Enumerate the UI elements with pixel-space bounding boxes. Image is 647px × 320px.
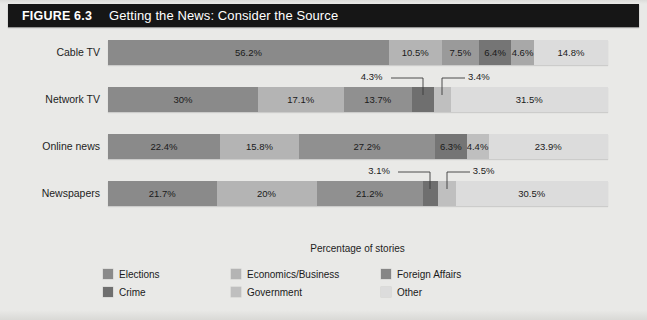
segment-value-label: 17.1% bbox=[287, 94, 314, 105]
legend-item-government[interactable]: Government bbox=[231, 284, 381, 300]
x-axis-title-text: Percentage of stories bbox=[242, 243, 405, 254]
bar-segment-other[interactable]: 23.9% bbox=[489, 134, 609, 159]
legend-swatch-icon bbox=[103, 269, 113, 279]
legend-item-economics-business[interactable]: Economics/Business bbox=[231, 266, 381, 282]
segment-value-label: 21.7% bbox=[149, 188, 176, 199]
chart-plot-area: Cable TV56.2%10.5%7.5%6.4%4.6%14.8%Netwo… bbox=[0, 30, 647, 240]
stacked-bar[interactable]: 21.7%20%21.2%30.5% bbox=[108, 181, 608, 206]
legend-label: Economics/Business bbox=[247, 269, 339, 280]
paper-bottom-shade bbox=[0, 310, 647, 320]
legend-swatch-icon bbox=[103, 287, 113, 297]
legend-swatch-icon bbox=[381, 269, 391, 279]
segment-value-label: 20% bbox=[257, 188, 276, 199]
bar-segment-elections[interactable]: 30% bbox=[108, 87, 258, 112]
x-axis-title: Percentage of stories bbox=[0, 243, 647, 254]
chart-row: Cable TV56.2%10.5%7.5%6.4%4.6%14.8% bbox=[0, 30, 647, 76]
bar-segment-other[interactable]: 14.8% bbox=[534, 40, 608, 65]
bar-segment-crime[interactable]: 6.4% bbox=[479, 40, 511, 65]
segment-value-label: 6.3% bbox=[440, 141, 462, 152]
segment-value-label: 30% bbox=[173, 94, 192, 105]
legend-item-elections[interactable]: Elections bbox=[103, 266, 231, 282]
figure-title: Getting the News: Consider the Source bbox=[109, 8, 338, 23]
chart-row: Online news22.4%15.8%27.2%6.3%4.4%23.9% bbox=[0, 124, 647, 170]
bar-segment-economics-business[interactable]: 17.1% bbox=[258, 87, 344, 112]
segment-value-label: 4.6% bbox=[512, 47, 534, 58]
segment-value-label: 30.5% bbox=[518, 188, 545, 199]
legend-swatch-icon bbox=[381, 287, 391, 297]
bar-segment-foreign-affairs[interactable]: 7.5% bbox=[442, 40, 480, 65]
legend-label: Government bbox=[247, 287, 302, 298]
callout-leader-line bbox=[368, 171, 438, 195]
bar-segment-elections[interactable]: 22.4% bbox=[108, 134, 220, 159]
legend-label: Foreign Affairs bbox=[397, 269, 461, 280]
bar-segment-government[interactable]: 4.6% bbox=[511, 40, 534, 65]
bar-segment-foreign-affairs[interactable]: 27.2% bbox=[299, 134, 435, 159]
segment-value-label: 14.8% bbox=[558, 47, 585, 58]
legend-swatch-icon bbox=[231, 287, 241, 297]
bar-segment-elections[interactable]: 21.7% bbox=[108, 181, 217, 206]
segment-value-label: 10.5% bbox=[402, 47, 429, 58]
legend-item-crime[interactable]: Crime bbox=[103, 284, 231, 300]
segment-value-label: 22.4% bbox=[151, 141, 178, 152]
legend-label: Other bbox=[397, 287, 422, 298]
segment-value-label: 31.5% bbox=[516, 94, 543, 105]
segment-value-label: 56.2% bbox=[235, 47, 262, 58]
bar-segment-crime[interactable]: 6.3% bbox=[435, 134, 467, 159]
stacked-bar[interactable]: 30%17.1%13.7%31.5% bbox=[108, 87, 608, 112]
chart-legend: ElectionsEconomics/BusinessForeign Affai… bbox=[103, 266, 543, 300]
stacked-bar[interactable]: 56.2%10.5%7.5%6.4%4.6%14.8% bbox=[108, 40, 608, 65]
chart-row: Network TV30%17.1%13.7%31.5%4.3%3.4% bbox=[0, 77, 647, 123]
row-label-newspapers: Newspapers bbox=[12, 187, 100, 199]
row-label-online-news: Online news bbox=[12, 140, 100, 152]
bar-segment-elections[interactable]: 56.2% bbox=[108, 40, 389, 65]
row-label-network-tv: Network TV bbox=[12, 93, 100, 105]
callout-leader-line bbox=[441, 77, 481, 101]
figure-container: FIGURE 6.3 Getting the News: Consider th… bbox=[0, 0, 647, 320]
callout-leader-line bbox=[361, 77, 431, 101]
segment-value-label: 15.8% bbox=[246, 141, 273, 152]
callout-leader-line bbox=[446, 171, 486, 195]
bar-segment-economics-business[interactable]: 10.5% bbox=[389, 40, 442, 65]
legend-swatch-icon bbox=[231, 269, 241, 279]
legend-item-foreign-affairs[interactable]: Foreign Affairs bbox=[381, 266, 521, 282]
legend-label: Crime bbox=[119, 287, 146, 298]
chart-row: Newspapers21.7%20%21.2%30.5%3.1%3.5% bbox=[0, 171, 647, 217]
segment-value-label: 4.4% bbox=[467, 141, 489, 152]
legend-item-other[interactable]: Other bbox=[381, 284, 521, 300]
segment-value-label: 6.4% bbox=[484, 47, 506, 58]
figure-header-bar: FIGURE 6.3 Getting the News: Consider th… bbox=[8, 4, 639, 27]
segment-value-label: 23.9% bbox=[535, 141, 562, 152]
bar-segment-government[interactable]: 4.4% bbox=[467, 134, 489, 159]
row-label-cable-tv: Cable TV bbox=[12, 46, 100, 58]
segment-value-label: 27.2% bbox=[354, 141, 381, 152]
bar-segment-economics-business[interactable]: 20% bbox=[217, 181, 317, 206]
figure-number: FIGURE 6.3 bbox=[22, 9, 92, 23]
segment-value-label: 7.5% bbox=[449, 47, 471, 58]
legend-label: Elections bbox=[119, 269, 160, 280]
bar-segment-economics-business[interactable]: 15.8% bbox=[220, 134, 299, 159]
stacked-bar[interactable]: 22.4%15.8%27.2%6.3%4.4%23.9% bbox=[108, 134, 608, 159]
